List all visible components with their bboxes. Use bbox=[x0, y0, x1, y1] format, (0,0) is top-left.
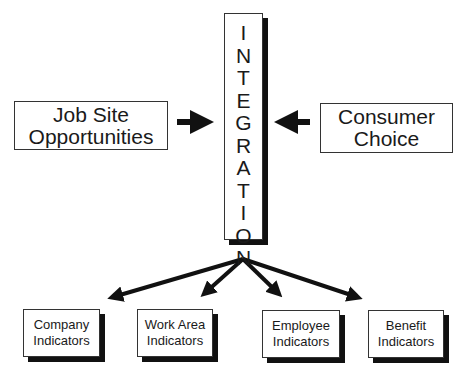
letter: I bbox=[241, 202, 247, 225]
box-label: Work Area bbox=[145, 317, 205, 333]
box-label: Indicators bbox=[273, 334, 329, 350]
employee-indicators-box: Employee Indicators bbox=[262, 310, 340, 358]
box-label: Job Site bbox=[53, 104, 129, 126]
consumer-choice-box: Consumer Choice bbox=[320, 103, 453, 153]
work-area-indicators-box: Work Area Indicators bbox=[137, 309, 213, 357]
box-label: Indicators bbox=[147, 333, 203, 349]
job-site-opportunities-box: Job Site Opportunities bbox=[14, 101, 168, 150]
box-label: Consumer bbox=[338, 106, 435, 128]
letter: G bbox=[235, 112, 251, 135]
letter: E bbox=[236, 90, 250, 113]
letter: R bbox=[236, 135, 251, 158]
box-label: Indicators bbox=[378, 334, 434, 350]
letter: O bbox=[235, 225, 251, 248]
letter: T bbox=[237, 180, 250, 203]
company-indicators-box: Company Indicators bbox=[23, 309, 100, 357]
letter: N bbox=[236, 247, 251, 270]
letter: N bbox=[236, 45, 251, 68]
box-label: Benefit bbox=[386, 318, 426, 334]
box-label: Indicators bbox=[33, 333, 89, 349]
integration-box: I N T E G R A T I O N bbox=[224, 13, 263, 240]
benefit-indicators-box: Benefit Indicators bbox=[368, 310, 444, 358]
letter: I bbox=[241, 22, 247, 45]
letter: A bbox=[236, 157, 250, 180]
box-label: Choice bbox=[354, 128, 419, 150]
box-label: Company bbox=[34, 317, 90, 333]
letter: T bbox=[237, 67, 250, 90]
box-label: Opportunities bbox=[29, 126, 154, 148]
box-label: Employee bbox=[272, 318, 330, 334]
